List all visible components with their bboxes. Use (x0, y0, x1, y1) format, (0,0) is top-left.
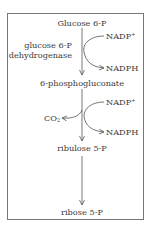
node-glucose-6p: Glucose 6-P (57, 18, 106, 28)
step1-nadph: NADPH (106, 63, 138, 73)
enzyme-label-line1: glucose 6-P (24, 40, 72, 50)
step1-nadp-plus: NADP+ (106, 31, 135, 41)
enzyme-label-line2: dehydrogenase (9, 50, 72, 60)
co2-byproduct: CO2 (44, 113, 60, 123)
node-ribulose-5p: ribulose 5-P (57, 143, 107, 153)
cofactor-curve-2 (84, 102, 104, 132)
node-6-phosphogluconate: 6-phosphogluconate (40, 78, 124, 88)
step2-nadph: NADPH (106, 127, 138, 137)
cofactor-curve-1 (84, 36, 104, 68)
step2-nadp-plus: NADP+ (106, 97, 135, 107)
co2-release-curve (62, 110, 82, 118)
node-ribose-5p: ribose 5-P (61, 207, 103, 217)
